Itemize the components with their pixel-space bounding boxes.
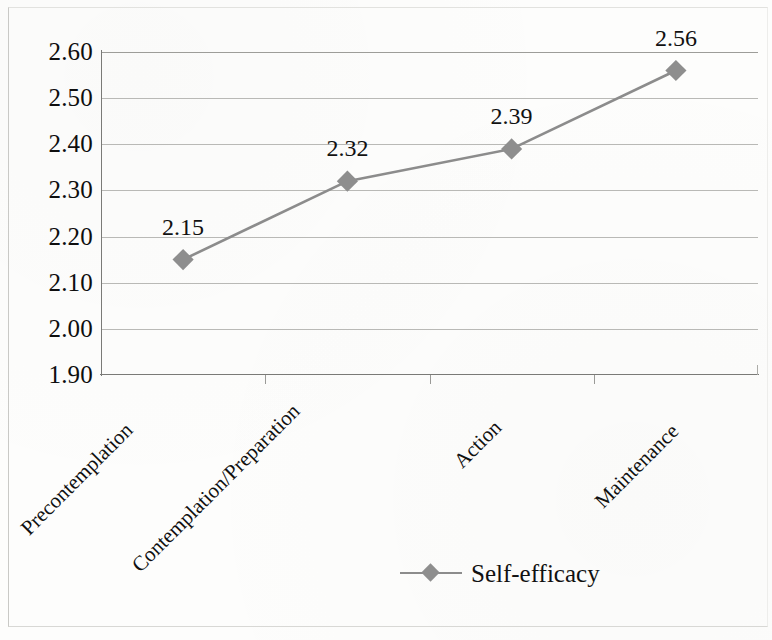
x-axis-category-labels: Precontemplation Contemplation/Preparati… bbox=[0, 375, 772, 550]
y-axis-tick-label: 2.20 bbox=[7, 224, 93, 249]
legend-swatch bbox=[400, 564, 462, 582]
legend-entry-self-efficacy: Self-efficacy bbox=[400, 561, 600, 586]
x-axis-category-label: Precontemplation bbox=[17, 419, 137, 539]
legend-label: Self-efficacy bbox=[471, 561, 600, 586]
data-point-label: 2.39 bbox=[491, 104, 533, 128]
y-axis-tick-label: 2.00 bbox=[7, 316, 93, 341]
y-axis-tick-label: 2.60 bbox=[7, 39, 93, 64]
y-axis-tick-label: 2.10 bbox=[7, 270, 93, 295]
chart-figure: 2.60 2.50 2.40 2.30 2.20 2.10 2.00 1.90 bbox=[0, 0, 772, 640]
diamond-marker-icon bbox=[421, 563, 439, 581]
plot-area: 2.15 2.32 2.39 2.56 bbox=[101, 52, 758, 375]
y-axis-tick-label: 2.40 bbox=[7, 131, 93, 156]
chart-legend: Self-efficacy bbox=[400, 556, 600, 590]
data-point-label: 2.15 bbox=[162, 215, 204, 239]
x-axis-category-label: Maintenance bbox=[591, 420, 683, 512]
x-axis-category-label: Contemplation/Preparation bbox=[128, 400, 304, 576]
y-axis-tick-label: 2.30 bbox=[7, 177, 93, 202]
y-axis-tick-labels: 2.60 2.50 2.40 2.30 2.20 2.10 2.00 1.90 bbox=[0, 52, 93, 375]
x-axis-category-label: Action bbox=[450, 417, 505, 472]
diamond-marker-icon bbox=[337, 171, 358, 192]
diamond-marker-icon bbox=[665, 60, 686, 81]
series-line bbox=[183, 71, 676, 260]
data-point-label: 2.32 bbox=[326, 136, 368, 160]
data-point-label: 2.56 bbox=[655, 26, 697, 50]
y-axis-tick-label: 2.50 bbox=[7, 85, 93, 110]
diamond-marker-icon bbox=[172, 249, 193, 270]
diamond-marker-icon bbox=[501, 138, 522, 159]
